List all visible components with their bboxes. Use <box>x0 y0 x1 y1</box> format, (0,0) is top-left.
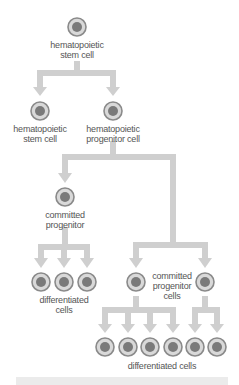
label-root: hematopoietic stem cell <box>50 40 103 60</box>
cell-committed_r1 <box>127 273 145 291</box>
nucleus-icon <box>108 106 118 116</box>
nucleus-icon <box>35 106 45 116</box>
nucleus-icon <box>72 22 82 32</box>
cell-diff_l3 <box>78 273 96 291</box>
nucleus-icon <box>190 342 200 352</box>
nucleus-icon <box>200 277 210 287</box>
nucleus-icon <box>212 342 222 352</box>
label-committed-right: committed progenitor cells <box>152 271 192 301</box>
cell-progenitor <box>104 102 122 120</box>
arrow-icon <box>57 258 71 268</box>
nucleus-icon <box>59 277 69 287</box>
cell-committed_r2 <box>196 273 214 291</box>
arrow-icon <box>34 258 48 268</box>
nucleus-icon <box>131 277 141 287</box>
cell-root <box>68 18 86 36</box>
nucleus-icon <box>82 277 92 287</box>
cell-diff_b3 <box>141 338 159 356</box>
arrow-icon <box>210 324 224 333</box>
cell-diff_b6 <box>208 338 226 356</box>
label-progenitor: hematopoietic progenitor cell <box>86 124 140 144</box>
arrow-icon <box>58 173 72 183</box>
cell-diff_b1 <box>96 338 114 356</box>
connector-committed-left <box>41 227 87 259</box>
caption-band <box>16 377 228 385</box>
arrow-icon <box>98 324 112 333</box>
arrow-icon <box>198 258 212 268</box>
cell-diff_b4 <box>164 338 182 356</box>
nucleus-icon <box>100 342 110 352</box>
label-self-renew: hematopoietic stem cell <box>13 124 66 144</box>
cell-diff_b5 <box>186 338 204 356</box>
arrow-icon <box>143 324 157 333</box>
connector-committed-r2 <box>195 296 217 325</box>
connector-root <box>40 61 113 88</box>
label-diff-bottom: differentiated cells <box>128 361 196 371</box>
label-committed-left: committed progenitor <box>45 210 85 230</box>
arrow-icon <box>121 324 135 333</box>
nucleus-icon <box>60 192 70 202</box>
connector-right-split <box>136 242 205 259</box>
cell-diff_b2 <box>119 338 137 356</box>
cell-self_renew <box>31 102 49 120</box>
arrow-icon <box>188 324 202 333</box>
cell-committed_left <box>56 188 74 206</box>
cell-diff_l1 <box>32 273 50 291</box>
nucleus-icon <box>145 342 155 352</box>
nucleus-icon <box>123 342 133 352</box>
hematopoiesis-diagram <box>0 0 239 385</box>
cell-diff_l2 <box>55 273 73 291</box>
arrow-icon <box>166 324 180 333</box>
label-diff-left: differentiated cells <box>39 295 88 315</box>
nucleus-icon <box>36 277 46 287</box>
arrow-icon <box>33 87 47 96</box>
arrow-icon <box>129 258 143 268</box>
arrow-icon <box>106 87 120 96</box>
arrow-icon <box>80 258 94 268</box>
nucleus-icon <box>168 342 178 352</box>
